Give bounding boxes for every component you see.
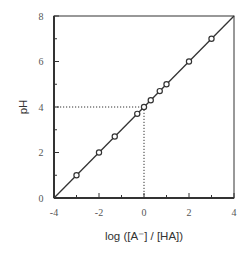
y-tick-label: 0 [39,193,44,204]
x-tick-label: 0 [142,207,147,218]
x-tick-label: -4 [50,207,58,218]
data-point-marker [96,150,101,155]
x-tick-label: -2 [95,207,103,218]
y-tick-label: 2 [39,147,44,158]
y-axis-title: pH [17,100,29,115]
data-point-marker [141,104,146,109]
y-axis-ticks: 02468 [39,11,60,204]
data-point-marker [112,134,117,139]
data-point-marker [74,173,79,178]
x-axis-ticks: -4-2024 [50,193,237,218]
y-tick-label: 8 [39,11,44,22]
data-point-marker [164,82,169,87]
x-axis-title: log ([A⁻] / [HA]) [105,230,183,242]
data-point-marker [157,88,162,93]
data-point-marker [186,59,191,64]
x-tick-label: 4 [232,207,237,218]
x-tick-label: 2 [187,207,192,218]
ph-vs-log-ratio-chart: -4-2024 02468 log ([A⁻] / [HA]) pH [0,0,250,253]
data-point-marker [209,36,214,41]
y-tick-label: 6 [39,56,44,67]
y-tick-label: 4 [39,102,44,113]
data-point-marker [135,111,140,116]
data-point-marker [148,98,153,103]
